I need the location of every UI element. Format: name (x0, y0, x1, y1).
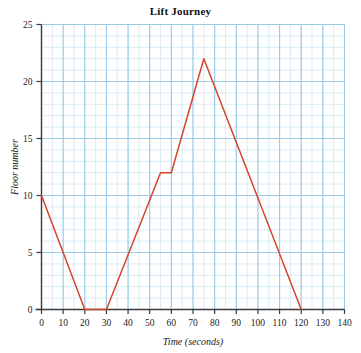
lift-journey-line-chart: 0102030405060708090100110120130140 05101… (0, 0, 361, 353)
x-tick-label: 40 (123, 318, 133, 328)
x-tick-label: 140 (337, 318, 352, 328)
x-tick-label: 80 (210, 318, 220, 328)
x-tick-label: 20 (80, 318, 90, 328)
y-tick-label: 25 (23, 20, 33, 30)
x-tick-labels: 0102030405060708090100110120130140 (39, 318, 352, 328)
y-tick-label: 20 (23, 77, 33, 87)
x-tick-label: 50 (145, 318, 155, 328)
y-tick-label: 5 (28, 248, 33, 258)
x-tick-label: 70 (188, 318, 198, 328)
x-tick-label: 0 (39, 318, 44, 328)
x-tick-label: 110 (273, 318, 287, 328)
x-axis-title: Time (seconds) (163, 336, 224, 348)
y-tick-labels: 0510152025 (23, 20, 33, 315)
x-tick-label: 90 (232, 318, 242, 328)
x-tick-label: 130 (316, 318, 331, 328)
y-tick-marks (37, 25, 42, 310)
x-tick-label: 30 (102, 318, 112, 328)
x-tick-label: 60 (167, 318, 177, 328)
chart-container: Lift Journey 010203040506070809010011012… (0, 0, 361, 353)
y-tick-label: 10 (23, 191, 33, 201)
y-tick-label: 0 (28, 305, 33, 315)
y-axis-title: Floor number (9, 139, 20, 196)
y-tick-label: 15 (23, 134, 33, 144)
axes (36, 25, 345, 310)
x-tick-label: 120 (294, 318, 309, 328)
x-tick-label: 100 (251, 318, 266, 328)
grid-major (42, 25, 345, 310)
x-tick-label: 10 (58, 318, 68, 328)
